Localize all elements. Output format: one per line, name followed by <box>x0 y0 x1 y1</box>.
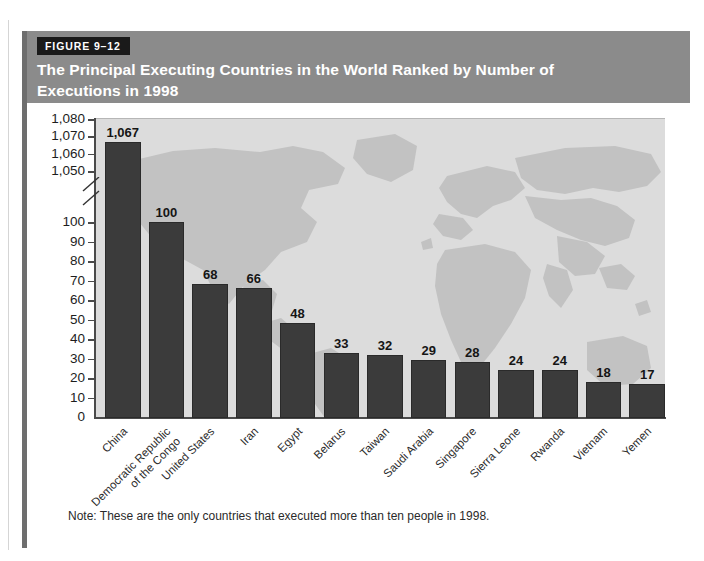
y-axis-tick-label: 70 <box>29 274 85 287</box>
figure-title: The Principal Executing Countries in the… <box>37 59 677 101</box>
category-label: Rwanda <box>528 425 567 464</box>
y-axis-tick-label: 1,080 <box>29 112 85 125</box>
bar <box>149 222 185 418</box>
category-label: China <box>99 425 130 456</box>
bar <box>498 370 534 418</box>
bar-value-label: 1,067 <box>96 126 150 139</box>
category-label: Iran <box>238 425 262 449</box>
plot-top-rule <box>95 118 665 119</box>
y-axis-tick <box>88 261 95 263</box>
y-axis-tick <box>88 222 95 224</box>
y-axis-tick-label: 50 <box>29 313 85 326</box>
y-axis-tick <box>88 398 95 400</box>
bar <box>411 360 447 418</box>
y-axis-tick-label: 1,060 <box>29 147 85 160</box>
y-axis-line <box>94 118 96 418</box>
chart-note: Note: These are the only countries that … <box>68 509 489 524</box>
y-axis-tick <box>88 136 95 138</box>
figure-page: FIGURE 9–12 The Principal Executing Coun… <box>0 0 704 561</box>
bar <box>542 370 578 418</box>
y-axis-tick <box>88 378 95 380</box>
bar-value-label: 48 <box>271 307 325 320</box>
chart-panel: 01020304050607080901001,0501,0601,0701,0… <box>27 103 690 548</box>
y-axis-tick <box>88 242 95 244</box>
y-axis-tick <box>88 281 95 283</box>
bar <box>192 284 228 418</box>
y-axis-tick-label: 60 <box>29 293 85 306</box>
figure-number-tag: FIGURE 9–12 <box>37 37 130 55</box>
figure-header-band: FIGURE 9–12 The Principal Executing Coun… <box>27 31 690 103</box>
bar <box>367 355 403 418</box>
category-label: Taiwan <box>358 425 393 460</box>
category-label: Belarus <box>312 425 349 462</box>
category-label: Yemen <box>620 425 655 460</box>
y-axis-tick <box>88 154 95 156</box>
y-axis-tick-label: 30 <box>29 352 85 365</box>
y-axis-tick-label: 80 <box>29 254 85 267</box>
y-axis-tick-label: 20 <box>29 371 85 384</box>
bar-value-label: 100 <box>140 206 194 219</box>
category-label: Egypt <box>275 425 305 455</box>
category-label: Vietnam <box>572 425 611 464</box>
y-axis-tick-label: 1,050 <box>29 164 85 177</box>
y-axis-tick <box>88 119 95 121</box>
bar-value-label: 66 <box>227 272 281 285</box>
frame-rule-left <box>8 20 9 550</box>
y-axis-tick-label: 40 <box>29 332 85 345</box>
bar-value-label: 17 <box>620 368 674 381</box>
y-axis-labels: 01020304050607080901001,0501,0601,0701,0… <box>27 103 85 433</box>
y-axis-tick <box>88 339 95 341</box>
y-axis-tick-label: 90 <box>29 235 85 248</box>
y-axis-tick <box>88 300 95 302</box>
bar <box>455 362 491 418</box>
y-axis-tick-label: 1,070 <box>29 129 85 142</box>
bar <box>324 353 360 418</box>
bar <box>629 384 665 418</box>
y-axis-tick-label: 0 <box>29 410 85 423</box>
figure-title-line-1: Executions in 1998 <box>37 80 677 101</box>
y-axis-tick-label: 100 <box>29 215 85 228</box>
y-axis-tick <box>88 320 95 322</box>
category-label-line-0: Democratic Republic <box>89 425 174 510</box>
bar <box>586 382 622 418</box>
y-axis-tick-label: 10 <box>29 391 85 404</box>
bar <box>280 323 316 418</box>
y-axis-tick <box>88 171 95 173</box>
bar <box>105 142 141 418</box>
figure-title-line-0: The Principal Executing Countries in the… <box>37 59 677 80</box>
bar <box>236 288 272 418</box>
y-axis-tick <box>88 359 95 361</box>
